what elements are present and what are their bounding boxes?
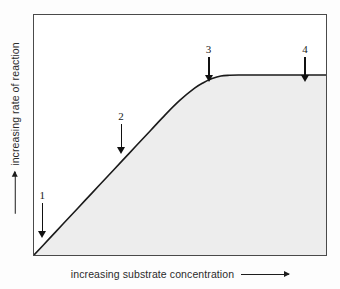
enzyme-kinetics-figure: increasing rate of reaction 1 2 3 4	[0, 0, 340, 289]
up-arrow-icon	[12, 172, 19, 214]
down-arrow-icon	[204, 57, 213, 82]
reaction-rate-curve	[34, 15, 326, 255]
marker-3: 3	[204, 44, 213, 82]
y-axis-label-text: increasing rate of reaction	[9, 42, 21, 166]
plot-area	[33, 14, 327, 256]
marker-4-label: 4	[302, 44, 308, 55]
marker-1-label: 1	[39, 190, 45, 201]
marker-3-label: 3	[206, 44, 212, 55]
down-arrow-icon	[38, 203, 47, 238]
marker-2: 2	[117, 111, 126, 154]
x-axis-label: increasing substrate concentration	[33, 262, 327, 286]
marker-2-label: 2	[118, 111, 124, 122]
down-arrow-icon	[117, 124, 126, 154]
y-axis-label: increasing rate of reaction	[0, 0, 30, 256]
right-arrow-icon	[241, 271, 289, 278]
marker-1: 1	[38, 190, 47, 238]
down-arrow-icon	[300, 57, 309, 82]
x-axis-label-text: increasing substrate concentration	[71, 268, 234, 280]
marker-4: 4	[300, 44, 309, 82]
curve-fill-area	[34, 75, 326, 255]
